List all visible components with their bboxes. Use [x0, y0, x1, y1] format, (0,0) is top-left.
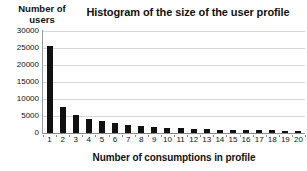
x-tick-label: 1: [43, 135, 56, 145]
bar-slot: [253, 31, 266, 133]
x-tick-label: 20: [292, 135, 305, 145]
x-tick-label: 14: [213, 135, 226, 145]
y-tick-label: 25000: [0, 44, 39, 52]
bar-slot: [200, 31, 213, 133]
x-tick-label: 5: [95, 135, 108, 145]
bar: [125, 125, 131, 133]
bar-slot: [161, 31, 174, 133]
x-tick-label: 18: [266, 135, 279, 145]
bar-slot: [95, 31, 108, 133]
bar-slot: [240, 31, 253, 133]
x-tick-label: 9: [148, 135, 161, 145]
x-axis-line: [43, 133, 305, 134]
bar-slot: [148, 31, 161, 133]
y-axis-title: Number of users: [11, 3, 73, 25]
x-axis-title: Number of consumptions in profile: [43, 152, 305, 163]
x-tick-label: 4: [82, 135, 95, 145]
bar: [112, 123, 118, 133]
bar-slot: [82, 31, 95, 133]
plot-area: [43, 31, 305, 133]
bar-slot: [135, 31, 148, 133]
x-tick-label: 17: [253, 135, 266, 145]
y-tick-label: 5000: [0, 112, 39, 120]
bar-slot: [43, 31, 56, 133]
x-tick-label: 15: [226, 135, 239, 145]
chart-title: Histogram of the size of the user profil…: [78, 6, 298, 19]
bar-slot: [122, 31, 135, 133]
bar-slot: [292, 31, 305, 133]
y-axis-title-line-2: users: [11, 14, 73, 25]
x-axis-tick-labels: 1234567891011121314151617181920: [43, 135, 305, 148]
bar-slot: [69, 31, 82, 133]
x-tick-label: 13: [200, 135, 213, 145]
x-tick-label: 3: [69, 135, 82, 145]
x-tick-label: 19: [279, 135, 292, 145]
bar-slot: [266, 31, 279, 133]
y-axis-title-line-1: Number of: [11, 3, 73, 14]
y-tick-label: 0: [0, 129, 39, 137]
bar-slot: [226, 31, 239, 133]
x-tick-label: 7: [122, 135, 135, 145]
bar-slot: [109, 31, 122, 133]
y-axis-line: [42, 30, 43, 134]
x-tick-mark: [305, 135, 306, 137]
x-tick-label: 11: [174, 135, 187, 145]
x-tick-label: 12: [187, 135, 200, 145]
bar-slot: [187, 31, 200, 133]
x-tick-label: 16: [240, 135, 253, 145]
y-tick-label: 15000: [0, 78, 39, 86]
x-tick-label: 6: [109, 135, 122, 145]
x-tick-label: 10: [161, 135, 174, 145]
histogram-chart: Histogram of the size of the user profil…: [0, 0, 307, 171]
bar: [99, 121, 105, 133]
x-tick-label: 2: [56, 135, 69, 145]
bar-slot: [174, 31, 187, 133]
bar-slot: [56, 31, 69, 133]
y-tick-label: 20000: [0, 61, 39, 69]
bar-slot: [213, 31, 226, 133]
bar: [138, 126, 144, 133]
y-tick-label: 30000: [0, 27, 39, 35]
bar: [47, 46, 53, 133]
bar: [73, 115, 79, 133]
x-tick-label: 8: [135, 135, 148, 145]
bar-slot: [279, 31, 292, 133]
y-tick-label: 10000: [0, 95, 39, 103]
bar: [60, 107, 66, 133]
bar: [86, 119, 92, 133]
